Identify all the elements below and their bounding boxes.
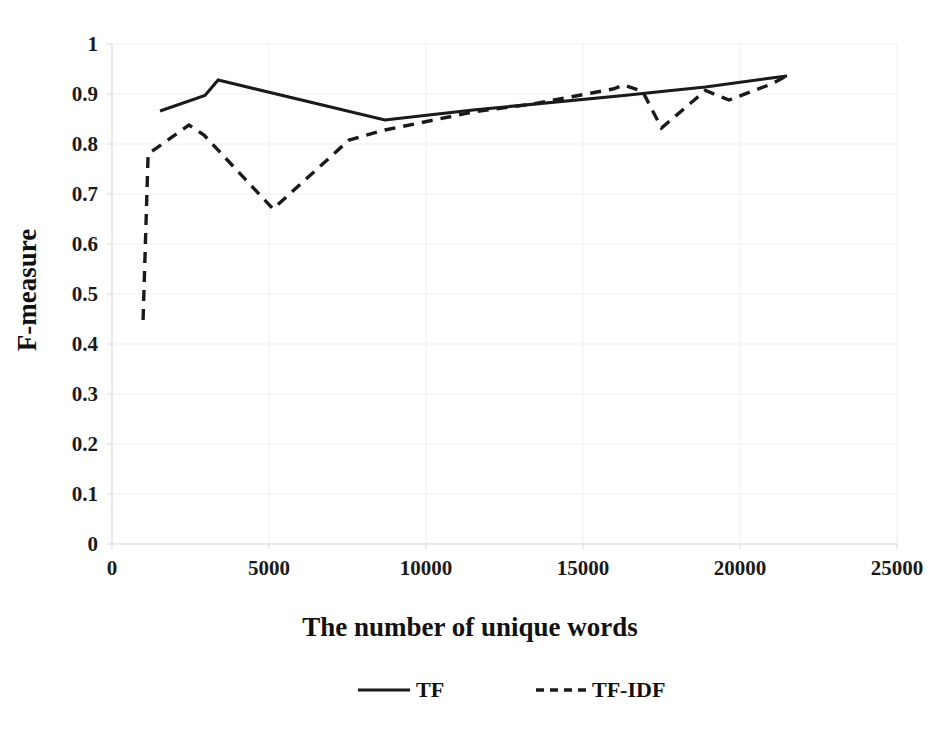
y-tick-label: 0.9 [72,82,98,106]
y-axis-tick-labels: 00.10.20.30.40.50.60.70.80.91 [72,32,99,556]
x-tick-label: 10000 [400,556,453,580]
x-axis-tick-labels: 0500010000150002000025000 [107,556,924,580]
y-tick-label: 0.5 [72,282,98,306]
x-tick-label: 15000 [557,556,610,580]
legend: TFTF-IDF [358,677,665,702]
y-tick-label: 0.3 [72,382,98,406]
y-tick-label: 0.7 [72,182,98,206]
y-tick-label: 0.6 [72,232,98,256]
y-tick-label: 0.2 [72,432,98,456]
y-tick-label: 0.4 [72,332,99,356]
series-line-tf-idf [143,76,787,321]
y-tick-label: 0 [88,532,99,556]
x-tick-label: 5000 [248,556,290,580]
series-line-tf [160,76,787,120]
legend-label-tf: TF [416,677,444,702]
x-tick-label: 0 [107,556,118,580]
y-tick-marks [107,44,112,544]
x-axis-title: The number of unique words [302,612,638,642]
x-tick-label: 25000 [871,556,924,580]
x-tick-marks [112,544,897,549]
y-tick-label: 0.1 [72,482,98,506]
y-axis-title: F-measure [12,229,42,351]
y-tick-label: 1 [88,32,99,56]
grid-lines [112,44,897,544]
chart-container: 00.10.20.30.40.50.60.70.80.91 0500010000… [0,0,939,744]
y-tick-label: 0.8 [72,132,98,156]
legend-label-tf-idf: TF-IDF [592,677,665,702]
x-tick-label: 20000 [714,556,767,580]
line-chart: 00.10.20.30.40.50.60.70.80.91 0500010000… [0,0,939,744]
data-series-group [143,76,787,321]
